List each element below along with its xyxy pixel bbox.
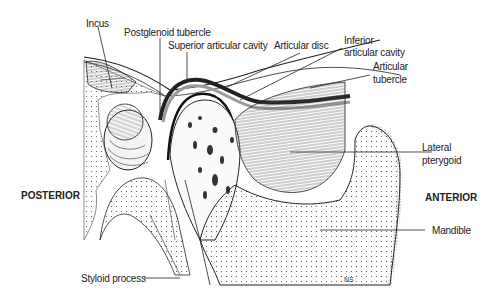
label-incus: Incus — [86, 18, 109, 29]
label-lateral-pterygoid-2: pterygoid — [422, 155, 461, 166]
label-inferior-articular-cavity-1: Inferior — [344, 35, 374, 46]
label-inferior-articular-cavity-2: articular cavity — [344, 47, 405, 58]
ear-canal-drawing — [104, 104, 152, 170]
label-lateral-pterygoid-1: Lateral — [422, 142, 451, 153]
label-articular-disc: Articular disc — [274, 40, 328, 51]
label-superior-articular-cavity: Superior articular cavity — [168, 40, 267, 51]
label-postglenoid-tubercle: Postglenoid tubercle — [124, 27, 211, 38]
label-articular-tubercle-1: Articular — [373, 61, 408, 72]
label-posterior: POSTERIOR — [21, 190, 80, 201]
label-articular-tubercle-2: tubercle — [373, 74, 407, 85]
incus-drawing — [86, 61, 136, 92]
leader-articular-disc — [225, 53, 300, 88]
label-styloid-process: Styloid process — [81, 273, 146, 284]
styloid-process-drawing — [100, 178, 190, 275]
label-anterior: ANTERIOR — [425, 192, 477, 203]
artist-signature: NS — [344, 276, 354, 283]
label-mandible: Mandible — [432, 225, 471, 236]
